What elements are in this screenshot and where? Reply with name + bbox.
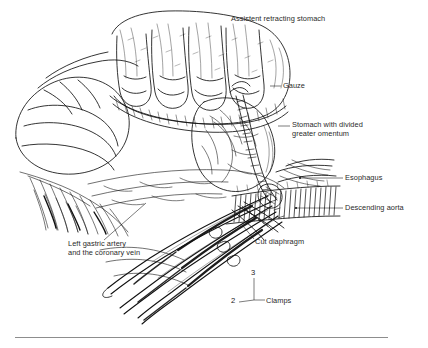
label-left-gastric-artery-and-the-coronary-vein: Left gastric artery and the coronary vei… [68, 239, 140, 257]
stomach-body [192, 98, 275, 192]
label-assistent-retracting-stomach: Assistent retracting stomach [231, 14, 325, 23]
label-descending-aorta: Descending aorta [345, 203, 404, 212]
callout-number-3: 3 [251, 268, 255, 277]
left-lobe [16, 52, 138, 174]
leader-lines [104, 86, 343, 302]
label-stomach-with-divided-greater-omentum: Stomach with divided greater omentum [292, 120, 363, 138]
label-clamps: Clamps [266, 296, 291, 305]
descending-aorta [226, 180, 340, 224]
assistant-hand [110, 11, 290, 132]
label-esophagus: Esophagus [345, 173, 382, 182]
esophagus [276, 159, 336, 186]
surgical-figure: Assistent retracting stomach Gauze Stoma… [0, 0, 428, 348]
bottom-divider-rule [15, 337, 388, 338]
label-cut-diaphragm: Cut diaphragm [255, 237, 304, 246]
callout-number-2: 2 [231, 296, 235, 305]
label-gauze: Gauze [283, 81, 305, 90]
